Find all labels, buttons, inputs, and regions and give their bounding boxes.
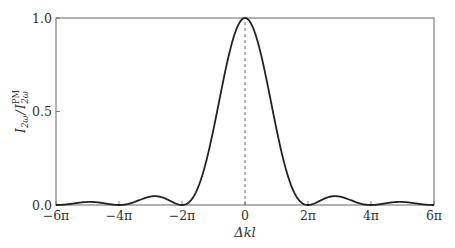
ylabel-sub2: 2ω xyxy=(20,91,30,104)
chart: −6π−4π−2π02π4π6π0.00.51.0 Δkl I2ω/IPM2ω xyxy=(0,0,455,248)
ylabel-sub1: 2ω xyxy=(20,116,30,129)
x-tick-label: −2π xyxy=(169,208,196,223)
x-tick-label: 4π xyxy=(363,208,379,223)
y-tick-label: 0.0 xyxy=(32,198,52,213)
x-tick-label: 0 xyxy=(241,208,249,223)
x-tick-label: 2π xyxy=(300,208,316,223)
y-tick-label: 1.0 xyxy=(32,11,52,26)
x-tick-label: 6π xyxy=(426,208,442,223)
x-tick-label: −4π xyxy=(106,208,133,223)
y-axis-label: I2ω/IPM2ω xyxy=(11,89,30,134)
tick-labels: −6π−4π−2π02π4π6π0.00.51.0 xyxy=(32,11,442,224)
x-axis-label: Δkl xyxy=(233,225,255,240)
y-tick-label: 0.5 xyxy=(32,104,52,119)
